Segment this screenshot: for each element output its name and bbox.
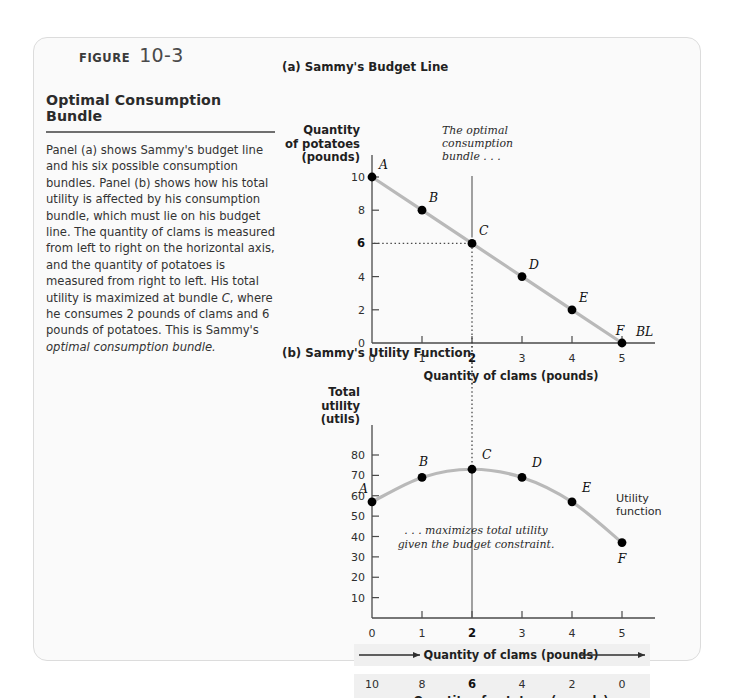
panel-b-x-axis-title-2: Quantity of potatoes (pounds) — [414, 694, 609, 698]
panel-b-data-point — [418, 473, 427, 482]
description-divider — [46, 131, 275, 133]
panel-b-y-tick-label: 40 — [351, 531, 365, 544]
panel-b-data-point — [468, 465, 477, 474]
panel-a-y-axis-title: Quantity — [303, 123, 360, 137]
panel-a-y-axis-title: of potatoes — [285, 137, 360, 151]
panel-b-x-axis-title: Quantity of clams (pounds) — [423, 648, 598, 662]
panel-a-point-label: E — [578, 290, 588, 305]
panel-a-data-point — [418, 206, 427, 215]
panel-b-data-point — [518, 473, 527, 482]
panel-b-x-tick-label: 1 — [419, 627, 426, 640]
panel-b-x-tick-label: 3 — [519, 627, 526, 640]
panel-b-point-label: D — [531, 455, 542, 470]
panel-a-y-tick-label: 6 — [357, 236, 365, 250]
description-title: Optimal Consumption Bundle — [42, 92, 277, 131]
panel-b-y-tick-label: 50 — [351, 510, 365, 523]
figure-header: FIGURE 10-3 — [79, 44, 184, 66]
panel-a-chart: Quantityof potatoes(pounds)0246810012345… — [277, 76, 697, 331]
panel-b-chart: Totalutility(utils)102030405060708001234… — [277, 360, 697, 656]
panel-a-point-label: A — [378, 157, 388, 172]
potatoes-tick-label: 10 — [365, 678, 379, 691]
panel-a-data-point — [518, 272, 527, 281]
potatoes-tick-label: 4 — [519, 678, 526, 691]
potatoes-tick-label: 0 — [619, 678, 626, 691]
panel-b-x-tick-label: 2 — [468, 626, 476, 640]
panel-a-point-label: B — [428, 190, 438, 205]
potatoes-tick-label: 6 — [468, 677, 476, 691]
panel-b-y-tick-label: 80 — [351, 449, 365, 462]
panel-a-y-tick-label: 4 — [358, 271, 365, 284]
panel-b-annotation: . . . maximizes total utility — [404, 524, 548, 537]
figure-label: FIGURE — [79, 51, 130, 65]
panel-a-budget-line — [372, 177, 622, 343]
panel-a-data-point — [618, 339, 627, 348]
panel-a-data-point — [368, 173, 377, 182]
panel-a-y-tick-label: 2 — [358, 304, 365, 317]
panel-b-annotation: given the budget constraint. — [398, 538, 555, 551]
panel-a-budget-line-label: BL — [635, 324, 653, 339]
panel-b-point-label: F — [617, 551, 627, 566]
panel-a-data-point — [568, 305, 577, 314]
utility-function-svg: Totalutility(utils)102030405060708001234… — [277, 360, 697, 656]
potatoes-tick-label: 8 — [419, 678, 426, 691]
panel-b-curve-label: Utility — [616, 492, 649, 505]
panel-b-x-tick-label: 0 — [369, 627, 376, 640]
figure-card: FIGURE 10-3 Optimal Consumption Bundle P… — [33, 37, 701, 661]
panel-b-curve-label: function — [616, 505, 662, 518]
budget-line-svg: Quantityof potatoes(pounds)0246810012345… — [277, 76, 697, 331]
panel-b-data-point — [618, 538, 627, 547]
panel-b-y-axis-title: Total — [328, 385, 360, 399]
panel-a-y-axis-title: (pounds) — [301, 150, 360, 164]
panel-a-annotation: The optimal — [442, 124, 508, 137]
potatoes-tick-label: 2 — [569, 678, 576, 691]
panel-b-y-tick-label: 20 — [351, 571, 365, 584]
panel-a-point-label: C — [479, 223, 489, 238]
panel-b-point-label: C — [482, 447, 492, 462]
panel-a-data-point — [468, 239, 477, 248]
panel-b-x-tick-label: 5 — [619, 627, 626, 640]
panel-b-x-tick-label: 4 — [569, 627, 576, 640]
figure-number: 10-3 — [139, 44, 183, 66]
panel-b-point-label: B — [418, 454, 428, 469]
panel-a-title: (a) Sammy's Budget Line — [282, 60, 448, 74]
panel-a-annotation: consumption — [442, 137, 513, 150]
panel-b-point-label: E — [581, 480, 591, 495]
panel-b-y-axis-title: utility — [321, 399, 360, 413]
panel-b-data-point — [568, 497, 577, 506]
panel-b-y-axis-title: (utils) — [321, 412, 360, 426]
panel-a-point-label: F — [615, 323, 625, 338]
panel-a-y-tick-label: 10 — [351, 171, 365, 184]
panel-a-point-label: D — [528, 257, 539, 272]
description-column: Optimal Consumption Bundle Panel (a) sho… — [42, 92, 277, 355]
panel-b-data-point — [368, 497, 377, 506]
panel-b-point-label: A — [358, 481, 368, 496]
panel-a-y-tick-label: 8 — [358, 204, 365, 217]
panel-b-y-tick-label: 10 — [351, 592, 365, 605]
panel-b-title: (b) Sammy's Utility Function — [282, 346, 471, 360]
panel-b-y-tick-label: 30 — [351, 551, 365, 564]
description-body: Panel (a) shows Sammy's budget line and … — [42, 142, 277, 355]
panel-a-annotation: bundle . . . — [442, 150, 501, 163]
